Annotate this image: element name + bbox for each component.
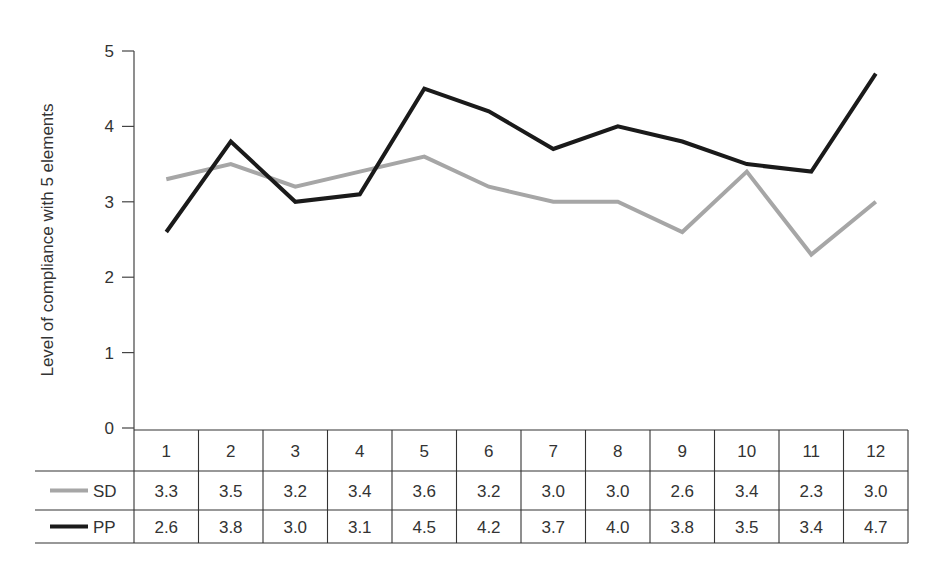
- x-category-label: 10: [737, 442, 756, 461]
- table-cell: 3.4: [799, 518, 823, 537]
- x-category-label: 11: [802, 442, 820, 461]
- y-tick-label: 4: [105, 117, 114, 136]
- table-cell: 2.3: [799, 482, 823, 501]
- table-cell: 3.5: [219, 482, 243, 501]
- x-category-label: 2: [226, 442, 235, 461]
- table-cell: 3.8: [670, 518, 694, 537]
- y-tick-label: 2: [105, 268, 114, 287]
- x-category-label: 6: [484, 442, 493, 461]
- table-cell: 3.5: [735, 518, 759, 537]
- table-cell: 3.0: [283, 518, 307, 537]
- y-tick-label: 1: [105, 344, 114, 363]
- x-category-label: 1: [162, 442, 171, 461]
- table-cell: 3.8: [219, 518, 243, 537]
- y-tick-label: 0: [105, 419, 114, 438]
- y-tick-label: 3: [105, 193, 114, 212]
- table-cell: 3.4: [348, 482, 372, 501]
- plot-lines: [166, 74, 876, 255]
- x-category-label: 5: [420, 442, 429, 461]
- x-category-label: 8: [613, 442, 622, 461]
- x-category-label: 7: [549, 442, 558, 461]
- table-cell: 3.3: [154, 482, 178, 501]
- table-cell: 4.7: [864, 518, 888, 537]
- x-category-label: 3: [291, 442, 300, 461]
- table-cell: 3.7: [541, 518, 565, 537]
- table-cell: 2.6: [670, 482, 694, 501]
- table-cell: 4.0: [606, 518, 630, 537]
- y-axis: 012345: [105, 42, 134, 438]
- table-cell: 3.0: [541, 482, 565, 501]
- table-cell: 3.1: [348, 518, 372, 537]
- y-tick-label: 5: [105, 42, 114, 61]
- data-table: 123456789101112SD3.33.53.23.43.63.23.03.…: [35, 430, 908, 543]
- table-cell: 3.0: [606, 482, 630, 501]
- table-cell: 2.6: [154, 518, 178, 537]
- series-line-pp: [166, 74, 876, 232]
- y-axis-label: Level of compliance with 5 elements: [38, 103, 57, 376]
- table-cell: 3.0: [864, 482, 888, 501]
- table-cell: 3.6: [412, 482, 436, 501]
- line-chart: 012345 Level of compliance with 5 elemen…: [0, 0, 943, 583]
- x-category-label: 4: [355, 442, 364, 461]
- table-cell: 4.5: [412, 518, 436, 537]
- table-cell: 3.2: [283, 482, 307, 501]
- table-cell: 3.2: [477, 482, 501, 501]
- table-cell: 4.2: [477, 518, 501, 537]
- table-cell: 3.4: [735, 482, 759, 501]
- legend-label-sd: SD: [93, 482, 117, 501]
- x-category-label: 9: [678, 442, 687, 461]
- series-line-sd: [166, 157, 876, 255]
- x-category-label: 12: [866, 442, 885, 461]
- legend-label-pp: PP: [93, 518, 116, 537]
